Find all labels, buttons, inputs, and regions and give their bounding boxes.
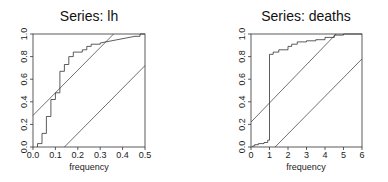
y-tick-label: 0.2 [19, 118, 29, 131]
y-tick-label: 0.6 [237, 73, 247, 86]
chart-title: Series: lh [60, 8, 118, 24]
y-tick-label: 1.0 [19, 28, 29, 41]
y-tick-label: 0.8 [19, 50, 29, 63]
x-tick-labels: 0.0 0.1 0.2 0.3 0.4 0.5 [27, 150, 152, 160]
cumulative-periodogram-line [253, 34, 362, 147]
lower-confidence-band [275, 59, 362, 147]
panel-lh: Series: lh 0.0 0.2 0.4 0.6 0.8 1.0 [19, 8, 151, 172]
x-tick-label: 6 [359, 150, 364, 160]
upper-confidence-band [33, 34, 114, 115]
panel-deaths: Series: deaths 0.0 0.2 0.4 0.6 0.8 1.0 [237, 8, 365, 172]
y-tick-label: 1.0 [237, 28, 247, 41]
x-tick-label: 0.0 [27, 150, 40, 160]
y-tick-label: 0.8 [237, 50, 247, 63]
x-tick-label: 5 [341, 150, 346, 160]
x-tick-label: 0.1 [49, 150, 62, 160]
x-tick-label: 0.5 [139, 150, 152, 160]
chart-title: Series: deaths [261, 8, 351, 24]
chart-canvas: Series: lh 0.0 0.2 0.4 0.6 0.8 1.0 [0, 0, 388, 182]
y-tick-labels: 0.0 0.2 0.4 0.6 0.8 1.0 [237, 28, 247, 154]
y-tick-label: 0.4 [237, 96, 247, 109]
x-axis-label: frequency [286, 162, 326, 172]
x-tick-label: 0 [248, 150, 253, 160]
lower-confidence-band [64, 66, 145, 147]
x-tick-label: 3 [304, 150, 309, 160]
y-axis [248, 34, 251, 147]
plot-frame [251, 34, 362, 147]
x-axis-label: frequency [69, 162, 109, 172]
x-tick-label: 2 [285, 150, 290, 160]
y-tick-label: 0.0 [237, 141, 247, 154]
cumulative-periodogram-line [38, 34, 146, 147]
y-axis [30, 34, 33, 147]
y-tick-label: 0.6 [19, 73, 29, 86]
plot-frame [33, 34, 145, 147]
x-tick-label: 0.4 [116, 150, 129, 160]
y-tick-labels: 0.0 0.2 0.4 0.6 0.8 1.0 [19, 28, 29, 154]
x-tick-label: 1 [267, 150, 272, 160]
upper-confidence-band [251, 34, 336, 122]
x-tick-labels: 0 1 2 3 4 5 6 [248, 150, 364, 160]
x-tick-label: 0.2 [72, 150, 85, 160]
y-tick-label: 0.2 [237, 118, 247, 131]
x-tick-label: 0.3 [94, 150, 107, 160]
x-tick-label: 4 [322, 150, 327, 160]
y-tick-label: 0.4 [19, 96, 29, 109]
